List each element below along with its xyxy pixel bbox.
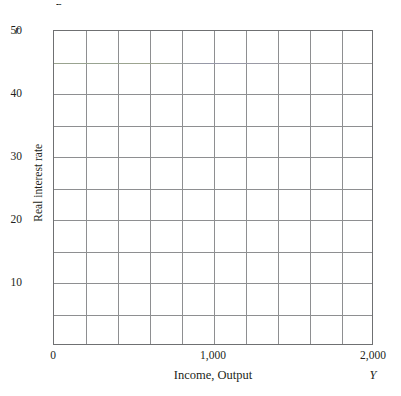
gridline-vertical	[182, 31, 183, 344]
x-axis-title: Income, Output	[113, 369, 313, 382]
gridline-horizontal	[54, 126, 372, 127]
gridline-horizontal	[54, 252, 372, 253]
gridline-vertical	[246, 31, 247, 344]
y-axis-tick-label: 20	[0, 214, 22, 226]
y-axis-tick-label: 40	[0, 88, 22, 100]
gridline-vertical	[214, 31, 215, 344]
y-axis-tick-label: 30	[0, 151, 22, 163]
gridline-vertical	[150, 31, 151, 344]
gridline-horizontal	[54, 94, 372, 95]
gridline-vertical	[86, 31, 87, 344]
gridline-horizontal	[54, 220, 372, 221]
x-axis-symbol: Y	[358, 369, 388, 382]
gridline-horizontal	[54, 315, 372, 316]
gridline-horizontal	[54, 189, 372, 190]
x-axis-tick-label: 2,000	[348, 350, 398, 362]
y-axis-tick-label: 50	[0, 25, 22, 37]
chart-plot-area	[53, 30, 373, 345]
x-axis-tick-label: 0	[33, 350, 73, 362]
x-axis-tick-label: 1,000	[188, 350, 238, 362]
y-axis-title: Real interest rate	[33, 93, 45, 273]
gridline-vertical	[118, 31, 119, 344]
gridline-vertical	[278, 31, 279, 344]
gridline-vertical	[310, 31, 311, 344]
gridline-horizontal	[54, 283, 372, 284]
clipped-header-text: p	[56, 0, 116, 5]
gridline-horizontal	[54, 157, 372, 158]
y-axis-tick-label: 10	[0, 277, 22, 289]
gridline-vertical	[342, 31, 343, 344]
gridline-horizontal	[54, 63, 372, 64]
